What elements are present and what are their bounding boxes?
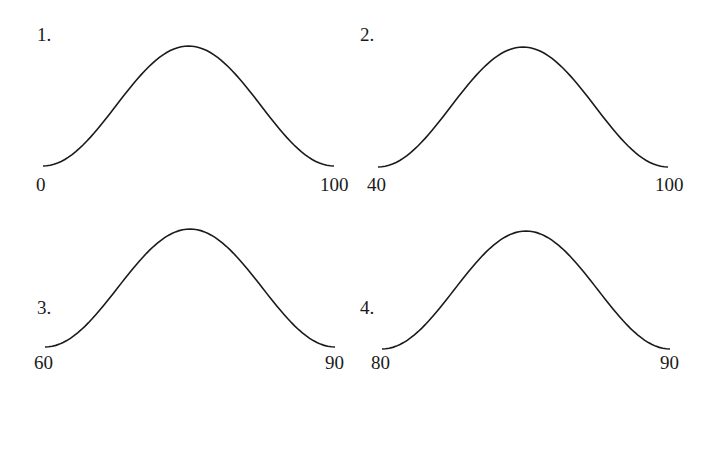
panel-4: 4. 80 90 <box>360 231 679 373</box>
right-label: 90 <box>325 352 344 373</box>
left-label: 60 <box>34 352 53 373</box>
panel-number: 2. <box>360 24 374 45</box>
bell-curve <box>43 46 334 166</box>
left-label: 80 <box>371 352 390 373</box>
left-label: 0 <box>36 174 46 195</box>
right-label: 90 <box>660 352 679 373</box>
diagram-canvas: 1. 0 100 2. 40 100 3. 60 90 4. 80 90 <box>0 0 715 450</box>
bell-curve <box>45 229 335 347</box>
panel-1: 1. 0 100 <box>36 24 349 195</box>
bell-curve <box>378 47 668 167</box>
bell-curve <box>382 231 670 349</box>
panel-number: 1. <box>37 24 51 45</box>
left-label: 40 <box>367 174 386 195</box>
panel-number: 3. <box>37 297 51 318</box>
panel-2: 2. 40 100 <box>360 24 684 195</box>
right-label: 100 <box>655 174 684 195</box>
panel-3: 3. 60 90 <box>34 229 344 373</box>
right-label: 100 <box>320 174 349 195</box>
panel-number: 4. <box>360 297 374 318</box>
